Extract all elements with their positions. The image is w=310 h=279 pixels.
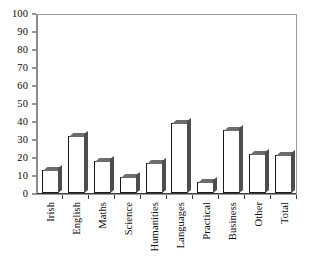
x-axis-tick-mark xyxy=(166,195,167,199)
bar xyxy=(68,136,85,193)
x-axis-label-slot: Maths xyxy=(89,200,115,279)
x-axis-tick-label: Languages xyxy=(175,202,186,248)
bar-slot xyxy=(193,15,219,193)
y-axis-tick-label: 10 xyxy=(17,171,28,182)
y-axis-tick-label: 80 xyxy=(17,45,28,56)
bar xyxy=(94,161,111,193)
x-axis-tick-label: Practical xyxy=(201,202,212,240)
x-axis-tick-label: Other xyxy=(253,202,264,226)
bar-slot xyxy=(38,15,64,193)
bar-slot xyxy=(64,15,90,193)
x-axis-label-slot: Other xyxy=(245,200,271,279)
x-axis-tick-mark xyxy=(218,195,219,199)
bar-chart: 0102030405060708090100 IrishEnglishMaths… xyxy=(0,0,310,279)
y-axis: 0102030405060708090100 xyxy=(0,8,36,198)
plot-area xyxy=(36,14,297,195)
x-axis-label-slot: Languages xyxy=(167,200,193,279)
bar xyxy=(249,154,266,193)
bar xyxy=(146,163,163,193)
bar-series xyxy=(38,15,296,193)
bar xyxy=(197,182,214,193)
x-axis-line xyxy=(37,193,296,194)
x-axis-tick-label: Maths xyxy=(97,202,108,229)
x-axis-tick-label: Business xyxy=(227,202,238,240)
y-axis-tick-label: 40 xyxy=(17,117,28,128)
x-axis-tick-mark xyxy=(62,195,63,199)
y-axis-tick-label: 50 xyxy=(17,99,28,110)
bar xyxy=(42,170,59,193)
x-axis-tick-label: Science xyxy=(123,202,134,235)
bar-slot xyxy=(244,15,270,193)
bar xyxy=(275,155,292,193)
bar xyxy=(223,130,240,193)
y-axis-tick-label: 20 xyxy=(17,153,28,164)
bar-slot xyxy=(90,15,116,193)
bar-slot xyxy=(219,15,245,193)
x-axis-label-slot: Total xyxy=(271,200,297,279)
x-axis-label-slot: Business xyxy=(219,200,245,279)
x-axis-tick-mark xyxy=(192,195,193,199)
x-axis-tick-mark xyxy=(244,195,245,199)
bar xyxy=(120,177,137,193)
x-axis-label-slot: Humanities xyxy=(141,200,167,279)
bar-slot xyxy=(141,15,167,193)
x-axis-tick-marks xyxy=(36,195,297,199)
y-axis-tick-label: 30 xyxy=(17,135,28,146)
x-axis-label-slot: English xyxy=(63,200,89,279)
x-axis-labels: IrishEnglishMathsScienceHumanitiesLangua… xyxy=(37,200,297,279)
x-axis-label-slot: Practical xyxy=(193,200,219,279)
bar xyxy=(171,123,188,193)
x-axis-tick-label: English xyxy=(71,202,82,235)
y-axis-tick-label: 60 xyxy=(17,81,28,92)
bar-slot xyxy=(115,15,141,193)
x-axis-tick-mark xyxy=(88,195,89,199)
x-axis-tick-mark xyxy=(114,195,115,199)
x-axis-tick-label: Humanities xyxy=(149,202,160,251)
y-axis-tick-label: 90 xyxy=(17,27,28,38)
plot-inner xyxy=(37,15,296,194)
y-axis-tick-label: 70 xyxy=(17,63,28,74)
y-axis-tick-label: 0 xyxy=(23,189,28,200)
x-axis-tick-label: Total xyxy=(279,202,290,224)
x-axis-tick-label: Irish xyxy=(45,202,56,222)
x-axis-tick-mark xyxy=(296,195,297,199)
bar-slot xyxy=(167,15,193,193)
x-axis-label-slot: Irish xyxy=(37,200,63,279)
y-axis-tick-label: 100 xyxy=(12,9,28,20)
bar-slot xyxy=(270,15,296,193)
x-axis-tick-mark xyxy=(270,195,271,199)
x-axis-label-slot: Science xyxy=(115,200,141,279)
x-axis-tick-mark xyxy=(140,195,141,199)
